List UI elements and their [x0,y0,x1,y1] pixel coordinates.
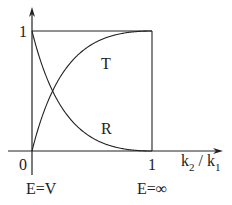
x-axis-label-slash: / [195,152,207,169]
x-axis-label-k2: k [181,152,189,169]
x-axis-label-sub1: 1 [215,161,221,173]
x-tick-0: 0 [19,156,27,173]
curve-t-label: T [101,55,111,72]
x-axis-label: k2 / k1 [181,152,220,173]
y-tick-1: 1 [19,23,27,40]
x-tick-1: 1 [148,156,156,173]
right-annotation: E=∞ [137,180,167,197]
curve-r-label: R [101,120,112,137]
transmission-curve [32,31,152,151]
left-annotation: E=V [26,180,57,197]
diagram-canvas: 1 0 1 T R k2 / k1 E=V E=∞ [0,0,232,205]
x-axis-label-k1: k [207,152,215,169]
reflection-curve [32,31,152,151]
